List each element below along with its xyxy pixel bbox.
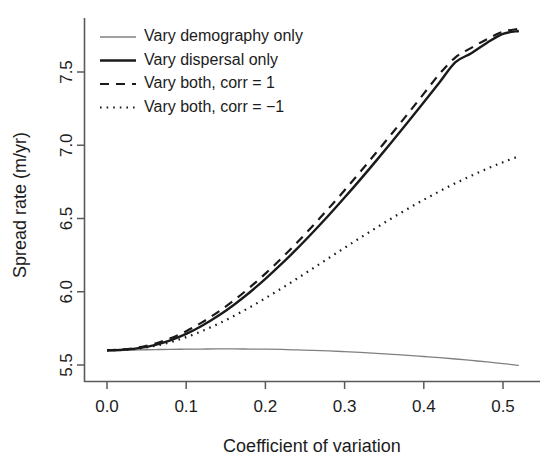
y-tick-label: 7.0 [57, 133, 76, 157]
series-line-3 [107, 156, 519, 350]
legend-label-2: Vary both, corr = 1 [144, 74, 275, 91]
spread-rate-line-chart: 5.56.06.57.07.5 0.00.10.20.30.40.5 Vary … [0, 0, 551, 463]
y-tick-label: 6.5 [57, 207, 76, 231]
axes: 5.56.06.57.07.5 0.00.10.20.30.40.5 [57, 18, 540, 416]
y-axis-ticks [77, 72, 85, 365]
x-tick-label: 0.4 [412, 397, 436, 416]
x-tick-label: 0.3 [333, 397, 357, 416]
y-tick-label: 5.5 [57, 353, 76, 377]
legend-label-0: Vary demography only [144, 27, 303, 44]
x-axis-ticks [107, 382, 503, 390]
y-axis-tick-labels: 5.56.06.57.07.5 [57, 60, 76, 377]
y-axis-title: Spread rate (m/yr) [10, 132, 30, 278]
series-line-0 [107, 349, 519, 366]
y-tick-label: 6.0 [57, 280, 76, 304]
x-tick-label: 0.2 [254, 397, 278, 416]
x-axis-title: Coefficient of variation [223, 436, 401, 456]
chart-legend: Vary demography onlyVary dispersal onlyV… [100, 27, 303, 115]
x-tick-label: 0.0 [95, 397, 119, 416]
legend-label-3: Vary both, corr = −1 [144, 98, 284, 115]
x-tick-label: 0.5 [491, 397, 515, 416]
y-tick-label: 7.5 [57, 60, 76, 84]
legend-label-1: Vary dispersal only [144, 51, 278, 68]
x-axis-tick-labels: 0.00.10.20.30.40.5 [95, 397, 515, 416]
chart-figure: 5.56.06.57.07.5 0.00.10.20.30.40.5 Vary … [0, 0, 551, 463]
x-tick-label: 0.1 [174, 397, 198, 416]
